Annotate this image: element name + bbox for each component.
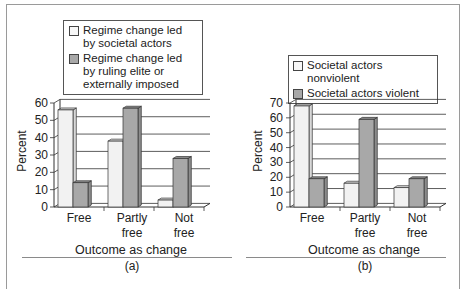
panel-label: (b) xyxy=(345,259,385,273)
y-tick-label: 10 xyxy=(270,185,284,199)
y-axis-label: Percent xyxy=(251,121,265,181)
y-tick-label: 20 xyxy=(270,170,284,184)
y-tick-label: 0 xyxy=(276,200,283,214)
bar xyxy=(309,177,327,207)
category-label: Partly free xyxy=(340,211,390,241)
bar xyxy=(409,177,427,207)
x-axis-title: Outcome as change xyxy=(264,243,464,257)
y-tick-label: 30 xyxy=(270,155,284,169)
category-label: Not free xyxy=(392,211,442,241)
y-tick-label: 40 xyxy=(270,141,284,155)
chart-b: 010203040506070 Percent Free Partly free… xyxy=(0,0,465,289)
bar xyxy=(359,117,377,207)
y-tick-label: 60 xyxy=(270,111,284,125)
y-tick-label: 50 xyxy=(270,126,284,140)
category-label: Free xyxy=(287,211,337,226)
y-tick-label: 70 xyxy=(270,96,284,110)
